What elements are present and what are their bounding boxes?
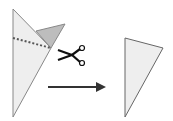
scissors-icon (58, 46, 85, 66)
arrow-icon (48, 82, 106, 92)
result-triangle (125, 38, 163, 117)
diagram-canvas (0, 0, 173, 121)
folded-paper (13, 9, 65, 117)
